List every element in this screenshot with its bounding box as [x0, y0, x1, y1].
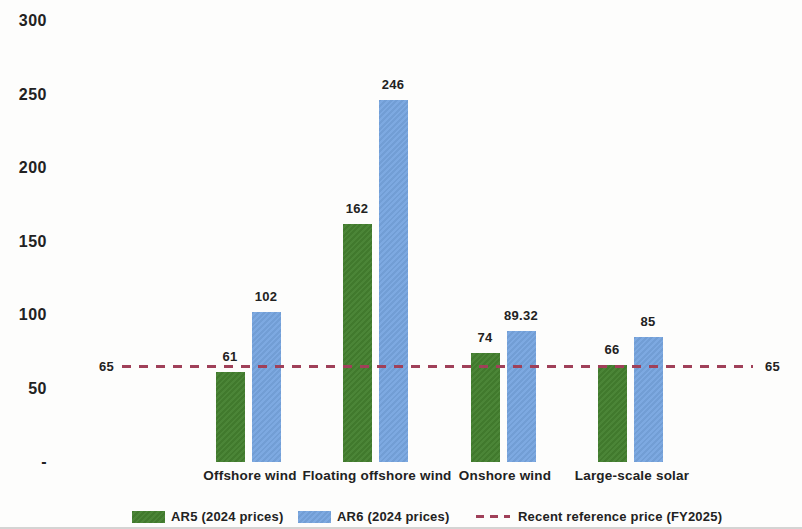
y-tick-300: 300 — [0, 11, 47, 31]
reference-line-legend-swatch — [476, 515, 510, 518]
ar5-legend-swatch — [132, 511, 165, 523]
bar-ar6-offshore-wind — [252, 312, 281, 462]
bar-value-ar6-large-scale-solar: 85 — [618, 315, 678, 329]
bar-ar5-onshore-wind — [471, 353, 500, 462]
ar5-legend-label: AR5 (2024 prices) — [171, 509, 284, 525]
y-tick-0: - — [0, 452, 47, 472]
y-tick-250: 250 — [0, 85, 47, 105]
y-tick-150: 150 — [0, 232, 47, 252]
bar-ar6-floating-offshore-wind — [379, 100, 408, 462]
y-tick-100: 100 — [0, 305, 47, 325]
bar-ar5-large-scale-solar — [598, 365, 627, 462]
bar-value-ar6-offshore-wind: 102 — [236, 290, 296, 304]
reference-legend-label: Recent reference price (FY2025) — [518, 509, 722, 525]
bar-ar5-floating-offshore-wind — [343, 224, 372, 462]
bar-value-ar6-onshore-wind: 89.32 — [491, 309, 551, 323]
bar-ar6-onshore-wind — [507, 331, 536, 462]
bar-ar5-offshore-wind — [216, 372, 245, 462]
lcoe-bar-chart: -50100150200250300 61162746610224689.328… — [0, 0, 802, 529]
y-tick-50: 50 — [0, 379, 47, 399]
ar6-legend-swatch — [298, 511, 331, 523]
ar6-legend-label: AR6 (2024 prices) — [337, 509, 450, 525]
reference-value-label-left: 65 — [82, 359, 114, 375]
bar-ar6-large-scale-solar — [634, 337, 663, 462]
category-label-large-scale-solar: Large-scale solar — [532, 468, 732, 484]
reference-value-label-right: 65 — [765, 359, 797, 375]
y-tick-200: 200 — [0, 158, 47, 178]
bar-value-ar6-floating-offshore-wind: 246 — [363, 78, 423, 92]
reference-line — [122, 365, 753, 368]
